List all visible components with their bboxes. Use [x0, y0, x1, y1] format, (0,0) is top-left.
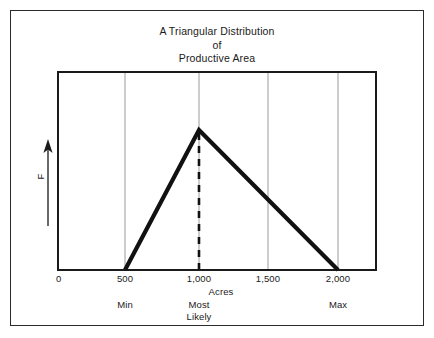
annotation-most-likely: Most Likely — [187, 299, 212, 322]
x-axis-label: Acres — [209, 286, 234, 298]
annotation-most-likely-line-2: Likely — [187, 311, 212, 323]
annotation-min: Min — [117, 299, 133, 311]
x-tick-label-1500: 1,500 — [256, 273, 280, 285]
annotation-most-likely-line-1: Most — [187, 299, 212, 311]
x-tick-label-0: 0 — [56, 273, 61, 285]
annotation-max: Max — [329, 299, 347, 311]
y-axis-label: F — [35, 170, 46, 184]
plot-background — [58, 72, 376, 270]
x-tick-label-1000: 1,000 — [187, 273, 211, 285]
x-tick-label-500: 500 — [117, 273, 133, 285]
x-tick-label-2000: 2,000 — [326, 273, 350, 285]
plot-area — [11, 11, 425, 327]
figure-panel: A Triangular Distribution of Productive … — [10, 10, 424, 326]
